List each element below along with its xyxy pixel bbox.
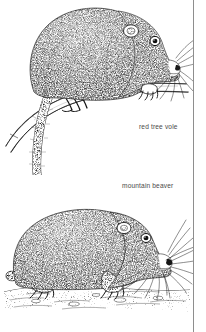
ground-shape (4, 286, 190, 314)
right-edge-rule (193, 0, 194, 332)
caption-red-tree-vole: red tree vole (139, 123, 178, 131)
illustration-page: red tree vole mountain beaver (0, 0, 206, 332)
caption-mountain-beaver: mountain beaver (122, 182, 173, 190)
ear-shape (117, 222, 131, 233)
figure-red-tree-vole (0, 0, 194, 175)
front-foot-shape (139, 84, 158, 100)
eye-shape (150, 36, 160, 45)
eye-shape (141, 234, 151, 243)
ear-shape (124, 25, 139, 37)
figure-mountain-beaver (0, 188, 194, 332)
right-gutter (194, 0, 206, 332)
